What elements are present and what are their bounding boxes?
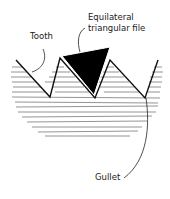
saw-tooth-diagram: Tooth Equilateral triangular file Gullet (0, 0, 170, 199)
gullet-leader-line (124, 98, 148, 178)
file-label-line-1: Equilateral (88, 12, 145, 23)
tooth-label: Tooth (30, 31, 53, 42)
file-label-line-2: triangular file (88, 23, 145, 34)
file-leader-line (78, 28, 85, 52)
gullet-label: Gullet (95, 172, 120, 183)
file-label: Equilateral triangular file (88, 12, 145, 34)
tooth-leader-line (32, 49, 45, 72)
